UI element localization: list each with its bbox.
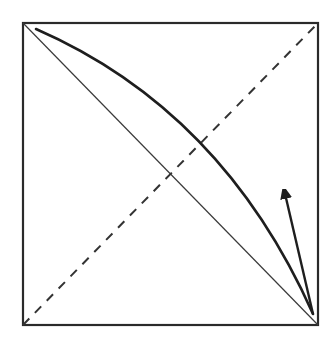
diagram-canvas (0, 0, 334, 338)
concave-curve (36, 29, 313, 314)
